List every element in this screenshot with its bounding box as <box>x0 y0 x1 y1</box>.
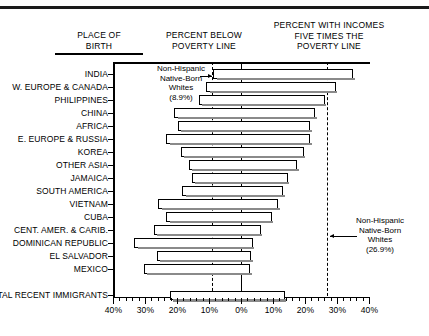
x-axis-minor-tick <box>158 298 159 301</box>
category-label-total-recent-immigrants: TOTAL RECENT IMMIGRANTS <box>0 290 108 300</box>
header-percent-income: PERCENT WITH INCOMES FIVE TIMES THE POVE… <box>254 20 404 52</box>
category-label-mexico: MEXICO <box>74 264 108 274</box>
x-axis-label-5: 10% <box>265 305 283 315</box>
x-axis-tick <box>369 298 370 304</box>
header-underline <box>55 53 143 55</box>
bar-w-europe-canada <box>206 82 336 92</box>
x-axis-minor-tick <box>267 298 268 301</box>
category-label-other-asia: OTHER ASIA <box>56 160 108 170</box>
annotation-right-line4: (26.9%) <box>337 245 423 255</box>
x-axis-label-6: 20% <box>297 305 315 315</box>
header-income-line3: POVERTY LINE <box>254 41 404 52</box>
x-axis-minor-tick <box>203 298 204 301</box>
x-axis-tick <box>305 298 306 304</box>
x-axis-minor-tick <box>318 298 319 301</box>
x-axis-minor-tick <box>126 298 127 301</box>
x-axis-label-2: 20% <box>169 305 187 315</box>
x-axis-minor-tick <box>260 298 261 301</box>
bar-cuba <box>166 212 272 222</box>
category-labels: INDIAW. EUROPE & CANADAPHILIPPINESCHINAA… <box>0 62 108 298</box>
category-label-cent-amer-carib: CENT. AMER. & CARIB. <box>14 225 108 235</box>
header-income-line1: PERCENT WITH INCOMES <box>254 20 404 31</box>
x-axis-minor-tick <box>363 298 364 301</box>
bar-korea <box>181 147 304 157</box>
x-axis-minor-tick <box>311 298 312 301</box>
x-axis-minor-tick <box>247 298 248 301</box>
x-axis-minor-tick <box>183 298 184 301</box>
x-axis-label-8: 40% <box>361 305 379 315</box>
x-axis-minor-tick <box>139 298 140 301</box>
category-label-jamaica: JAMAICA <box>70 173 108 183</box>
x-axis-minor-tick <box>151 298 152 301</box>
x-axis-minor-tick <box>132 298 133 301</box>
x-axis-minor-tick <box>235 298 236 301</box>
category-label-korea: KOREA <box>78 147 108 157</box>
x-axis-minor-tick <box>331 298 332 301</box>
annotation-right-line2: Native-Born <box>337 226 423 236</box>
category-label-india: INDIA <box>85 69 108 79</box>
bar-philippines <box>199 95 325 105</box>
bar-other-asia <box>189 160 298 170</box>
x-axis-minor-tick <box>190 298 191 301</box>
header-income-line2: FIVE TIMES THE <box>254 31 404 42</box>
x-axis-minor-tick <box>215 298 216 301</box>
bar-africa <box>178 121 311 131</box>
category-label-cuba: CUBA <box>84 212 108 222</box>
x-axis-minor-tick <box>279 298 280 301</box>
x-axis-tick <box>337 298 338 304</box>
header-below-line1: PERCENT BELOW <box>152 30 256 41</box>
x-axis-label-3: 10% <box>201 305 219 315</box>
bar-el-salvador <box>157 251 251 261</box>
x-axis-tick <box>209 298 210 304</box>
bar-dominican-republic <box>134 238 252 248</box>
bar-mexico <box>144 264 251 274</box>
category-label-w-europe-canada: W. EUROPE & CANADA <box>12 82 108 92</box>
header-place-line1: PLACE OF <box>44 30 154 41</box>
category-label-e-europe-russia: E. EUROPE & RUSSIA <box>18 134 108 144</box>
bar-vietnam <box>158 199 278 209</box>
category-label-philippines: PHILIPPINES <box>54 95 108 105</box>
x-axis-minor-tick <box>171 298 172 301</box>
header-place-of-birth: PLACE OF BIRTH <box>44 30 154 55</box>
header-below-line2: POVERTY LINE <box>152 41 256 52</box>
bar-south-america <box>182 186 283 196</box>
annotation-left-line1: Non-Hispanic <box>148 64 214 74</box>
category-label-dominican-republic: DOMINICAN REPUBLIC <box>13 238 108 248</box>
x-axis-label-7: 30% <box>329 305 347 315</box>
x-axis-label-0: 40% <box>105 305 123 315</box>
annotation-left-line2: Native-Born <box>148 74 214 84</box>
x-axis-minor-tick <box>286 298 287 301</box>
x-axis-minor-tick <box>228 298 229 301</box>
header-percent-below: PERCENT BELOW POVERTY LINE <box>152 30 256 51</box>
x-axis-tick <box>273 298 274 304</box>
x-axis-minor-tick <box>324 298 325 301</box>
annotation-right-line1: Non-Hispanic <box>337 216 423 226</box>
category-label-south-america: SOUTH AMERICA <box>36 186 108 196</box>
x-axis-minor-tick <box>119 298 120 301</box>
bar-india <box>213 69 353 79</box>
x-axis-minor-tick <box>356 298 357 301</box>
x-axis-tick <box>145 298 146 304</box>
x-axis-minor-tick <box>196 298 197 301</box>
top-rule <box>0 6 429 9</box>
reference-line-dashed-2 <box>327 62 328 296</box>
x-axis-minor-tick <box>164 298 165 301</box>
bar-china <box>174 108 315 118</box>
chart-figure: PLACE OF BIRTH PERCENT BELOW POVERTY LIN… <box>0 0 429 336</box>
plot-frame-left <box>113 62 115 298</box>
x-axis-tick <box>177 298 178 304</box>
category-label-china: CHINA <box>81 108 108 118</box>
x-axis-minor-tick <box>254 298 255 301</box>
arrow-right-annotation-line <box>330 236 357 237</box>
bar-e-europe-russia <box>166 134 310 144</box>
x-axis-minor-tick <box>292 298 293 301</box>
annotation-left: Non-Hispanic Native-Born Whites (8.9%) <box>148 64 214 102</box>
bar-cent-amer-carib <box>154 225 261 235</box>
x-axis-label-1: 30% <box>137 305 155 315</box>
x-axis-tick <box>113 298 114 304</box>
x-axis-tick <box>241 298 242 304</box>
arrow-left-annotation-head <box>208 74 212 78</box>
x-axis-minor-tick <box>350 298 351 301</box>
x-axis-minor-tick <box>299 298 300 301</box>
arrow-right-annotation-head <box>330 234 334 238</box>
